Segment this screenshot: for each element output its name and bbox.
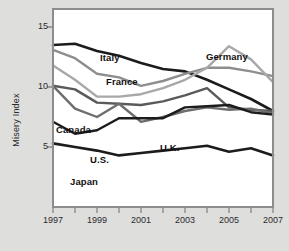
series-label-canada: Canada <box>56 124 91 135</box>
x-tick-label: 1997 <box>40 215 66 225</box>
x-tick-label: 1999 <box>84 215 110 225</box>
misery-index-chart: Misery Index 51015 199719992001200320052… <box>0 0 289 251</box>
x-tick-label: 2005 <box>216 215 242 225</box>
x-tick-label: 2007 <box>260 215 286 225</box>
series-label-germany: Germany <box>206 51 248 62</box>
series-label-italy: Italy <box>100 52 120 63</box>
series-label-us: U.S. <box>90 154 109 165</box>
chart-plot-area <box>0 0 289 251</box>
y-tick-label: 10 <box>30 81 48 91</box>
series-label-uk: U.K. <box>160 142 179 153</box>
series-label-france: France <box>106 76 138 87</box>
y-tick-label: 15 <box>30 21 48 31</box>
x-tick-label: 2003 <box>172 215 198 225</box>
y-tick-label: 5 <box>30 141 48 151</box>
series-label-japan: Japan <box>70 176 98 187</box>
x-tick-label: 2001 <box>128 215 154 225</box>
y-axis-title: Misery Index <box>11 84 21 156</box>
